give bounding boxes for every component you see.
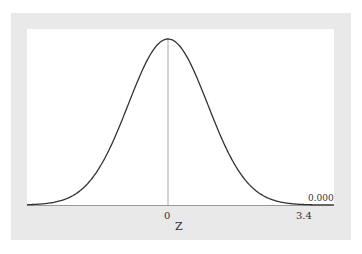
x-axis-label: Z xyxy=(175,222,183,232)
tick-zero: 0 xyxy=(164,211,170,221)
area-value-label: 0.000 xyxy=(308,193,334,203)
density-curve xyxy=(27,39,334,205)
tick-value: 3.4 xyxy=(296,211,312,221)
